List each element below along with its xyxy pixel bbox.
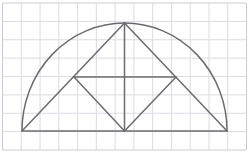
figure-canvas xyxy=(0,0,249,155)
left-mid-to-bottom-center xyxy=(74,77,125,131)
geometry-figure xyxy=(0,0,249,155)
right-mid-to-bottom-center xyxy=(125,77,177,131)
